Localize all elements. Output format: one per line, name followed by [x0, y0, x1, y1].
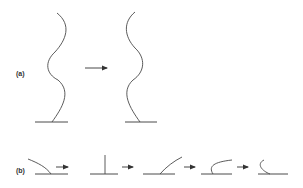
panel-b-stage-5	[258, 160, 288, 174]
panel-b-stage-2	[90, 155, 118, 174]
panel-a-final-filament	[125, 12, 157, 122]
panel-b-stage-3	[143, 157, 182, 174]
wavy-filament	[48, 13, 66, 122]
wavy-filament	[126, 12, 142, 122]
diagram-canvas	[0, 0, 303, 188]
panel-b-stage-4	[201, 160, 232, 174]
panel-b-stage-1	[28, 159, 68, 174]
filament	[160, 157, 182, 174]
filament	[28, 159, 51, 174]
filament	[211, 160, 232, 174]
panel-a-initial-filament	[35, 13, 68, 122]
filament	[260, 160, 270, 174]
